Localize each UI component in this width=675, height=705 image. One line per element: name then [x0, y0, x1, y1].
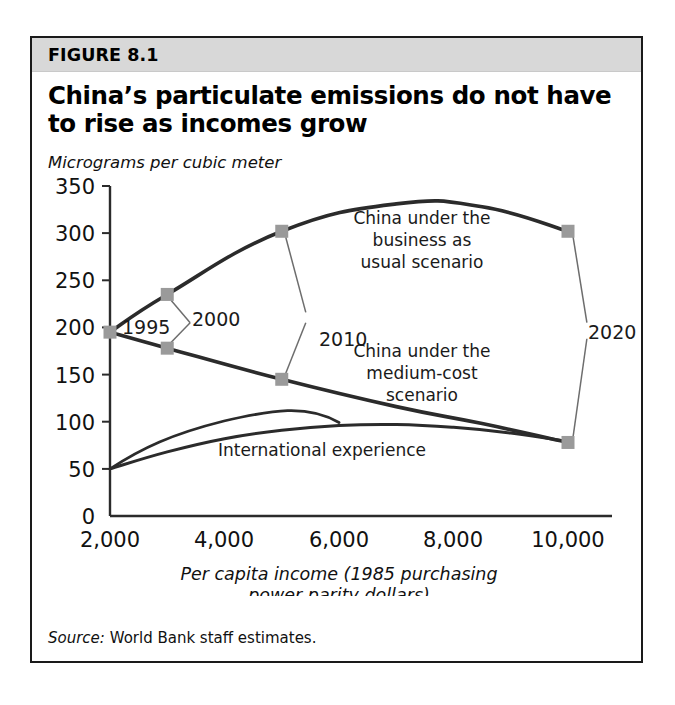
annotation-bau-line-2: business as: [373, 230, 472, 250]
leader-line-2010-upper: [286, 237, 306, 312]
marker-medium-2020: [562, 436, 575, 449]
y-tick-label-50: 50: [68, 458, 95, 482]
annotation-bau-line-1: China under the: [353, 208, 490, 228]
x-tick-label-6000: 6,000: [309, 528, 369, 552]
chart-plot-area: 350 300 250 200 150 100 50 0 2,000 4,000…: [32, 176, 641, 596]
x-axis-title-line-2: power parity dollars): [247, 585, 430, 596]
x-tick-label-8000: 8,000: [423, 528, 483, 552]
leader-line-2000-upper: [171, 300, 190, 322]
figure-number-label: FIGURE 8.1: [48, 45, 159, 65]
figure-title-line-2: to rise as incomes grow: [48, 110, 625, 138]
x-axis-title: Per capita income (1985 purchasing power…: [180, 564, 497, 596]
x-tick-label-10000: 10,000: [531, 528, 604, 552]
y-axis-ticks: 350 300 250 200 150 100 50 0: [55, 176, 110, 529]
chart-svg: 350 300 250 200 150 100 50 0 2,000 4,000…: [32, 176, 641, 596]
marker-bau-2000: [161, 288, 174, 301]
y-tick-label-0: 0: [82, 505, 95, 529]
y-tick-label-100: 100: [55, 411, 95, 435]
annotation-medium-line-1: China under the: [353, 341, 490, 361]
year-label-1995: 1995: [122, 316, 170, 338]
source-note: Source: World Bank staff estimates.: [48, 629, 316, 647]
marker-medium-2000: [161, 341, 174, 354]
annotation-medium-cost: China under the medium-cost scenario: [353, 341, 490, 405]
x-axis-ticks: 2,000 4,000 6,000 8,000 10,000: [80, 528, 605, 552]
y-tick-label-200: 200: [55, 316, 95, 340]
annotation-bau-line-3: usual scenario: [361, 252, 484, 272]
y-axis-unit-label: Micrograms per cubic meter: [48, 153, 625, 172]
annotation-international-experience: International experience: [218, 440, 426, 460]
marker-bau-2010: [275, 225, 288, 238]
source-text: World Bank staff estimates.: [105, 629, 317, 647]
annotation-business-as-usual: China under the business as usual scenar…: [353, 208, 490, 272]
x-tick-label-4000: 4,000: [194, 528, 254, 552]
leader-line-2010-lower: [286, 323, 306, 374]
y-tick-label-150: 150: [55, 363, 95, 387]
annotation-medium-line-3: scenario: [386, 385, 458, 405]
year-label-2000: 2000: [192, 308, 240, 330]
y-tick-label-250: 250: [55, 269, 95, 293]
y-tick-label-300: 300: [55, 222, 95, 246]
marker-bau-2020: [562, 225, 575, 238]
x-tick-label-2000: 2,000: [80, 528, 140, 552]
marker-1995: [104, 325, 117, 338]
year-label-2020: 2020: [588, 321, 636, 343]
figure-title-line-1: China’s particulate emissions do not hav…: [48, 82, 625, 110]
y-tick-label-350: 350: [55, 176, 95, 199]
series-business-as-usual: [110, 201, 568, 332]
x-axis-title-line-1: Per capita income (1985 purchasing: [180, 564, 497, 584]
leader-line-2020-lower: [573, 339, 587, 438]
marker-medium-2010: [275, 373, 288, 386]
annotation-medium-line-2: medium-cost: [366, 363, 478, 383]
source-label: Source:: [48, 629, 105, 647]
figure-title: China’s particulate emissions do not hav…: [48, 82, 625, 139]
leader-line-2020-upper: [573, 236, 587, 322]
figure-card: FIGURE 8.1 China’s particulate emissions…: [30, 36, 643, 663]
leader-line-2000-lower: [171, 323, 190, 342]
figure-header-bar: FIGURE 8.1: [32, 38, 641, 72]
